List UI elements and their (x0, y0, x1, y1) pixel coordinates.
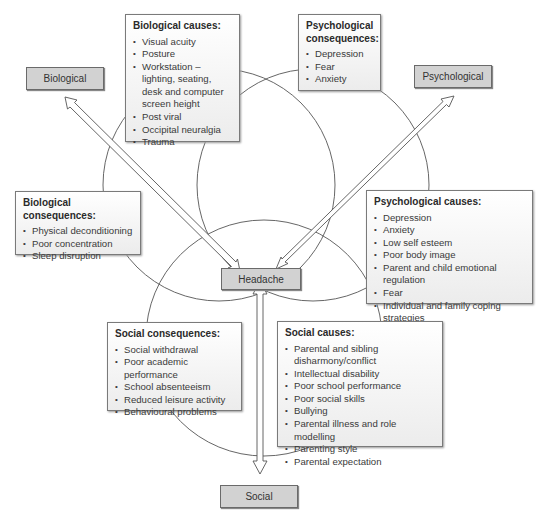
headache-node: Headache (221, 268, 301, 290)
list-item: Low self esteem (374, 237, 525, 250)
list-item: Parenting style (285, 443, 435, 456)
arrow-social (253, 281, 267, 474)
list-item: Occipital neuralgia (133, 124, 232, 137)
list-item: Trauma (133, 136, 232, 149)
list-item: Sleep disruption (23, 250, 133, 263)
list-item: Anxiety (374, 224, 525, 237)
list-item: Behavioural problems (115, 406, 234, 419)
list-item: Post viral (133, 111, 232, 124)
social-node: Social (220, 485, 298, 508)
list-item: Fear (374, 287, 525, 300)
biological-node: Biological (26, 67, 104, 90)
psychological-consequences-title: Psychological consequences: (306, 20, 373, 45)
psychological-node: Psychological (414, 65, 492, 88)
list-item: Poor school performance (285, 380, 435, 393)
social-causes-box: Social causes: Parental and sibling dish… (277, 321, 443, 447)
list-item: Intellectual disability (285, 368, 435, 381)
list-item: Poor academic performance (115, 356, 234, 381)
list-item: Poor body image (374, 249, 525, 262)
list-item: Reduced leisure activity (115, 394, 234, 407)
biological-causes-title: Biological causes: (133, 20, 232, 33)
list-item: Posture (133, 48, 232, 61)
list-item: Visual acuity (133, 36, 232, 49)
list-item: Social withdrawal (115, 344, 234, 357)
list-item: Parent and child emotional regulation (374, 262, 525, 287)
psychological-causes-box: Psychological causes: Depression Anxiety… (366, 190, 533, 304)
list-item: Parental illness and role modelling (285, 418, 435, 443)
list-item: Parental and sibling disharmony/conflict (285, 343, 435, 368)
psychological-consequences-box: Psychological consequences: Depression F… (298, 14, 381, 91)
list-item: Physical deconditioning (23, 225, 133, 238)
list-item: Fear (306, 61, 373, 74)
list-item: Anxiety (306, 73, 373, 86)
list-item: Poor concentration (23, 238, 133, 251)
social-consequences-title: Social consequences: (115, 328, 234, 341)
biological-causes-box: Biological causes: Visual acuity Posture… (125, 14, 240, 142)
list-item: Poor social skills (285, 393, 435, 406)
social-consequences-box: Social consequences: Social withdrawal P… (107, 322, 242, 411)
list-item: Bullying (285, 405, 435, 418)
list-item: Parental expectation (285, 456, 435, 469)
list-item: Depression (374, 212, 525, 225)
biological-consequences-title: Biological consequences: (23, 197, 133, 222)
list-item: Depression (306, 48, 373, 61)
psychological-causes-title: Psychological causes: (374, 196, 525, 209)
biological-consequences-box: Biological consequences: Physical decond… (15, 191, 141, 255)
social-causes-title: Social causes: (285, 327, 435, 340)
list-item: School absenteeism (115, 381, 234, 394)
list-item: Workstation – lighting, seating, desk an… (133, 61, 232, 111)
